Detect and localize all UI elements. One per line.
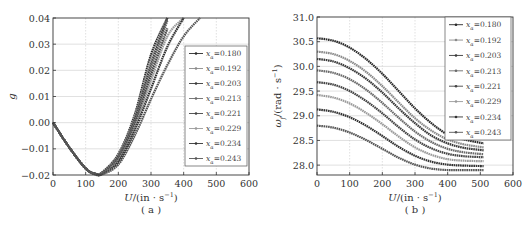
- y-tick-label: −0.01: [21, 143, 50, 154]
- legend-marker: [195, 97, 198, 100]
- y-tick-label: 29.0: [293, 110, 314, 121]
- figure: 0100200300400500600−0.02−0.010.000.010.0…: [0, 0, 530, 226]
- x-tick-label: 0: [314, 178, 320, 189]
- x-tick-label: 200: [373, 178, 391, 189]
- x-tick-label: 600: [504, 178, 522, 189]
- legend-marker: [195, 67, 198, 70]
- legend-marker: [195, 52, 198, 55]
- y-tick-label: 0.02: [29, 65, 50, 76]
- legend-marker: [455, 39, 458, 42]
- y-tick-label: 0.03: [29, 39, 50, 50]
- y-tick-label: 28.5: [293, 135, 314, 146]
- x-tick-label: 500: [471, 178, 489, 189]
- x-tick-label: 100: [341, 178, 359, 189]
- legend-marker: [195, 127, 198, 130]
- y-tick-label: −0.02: [21, 170, 50, 181]
- x-tick-label: 0: [50, 178, 56, 189]
- legend: xα=0.180xα=0.192xα=0.203xα=0.213xα=0.221…: [185, 46, 247, 166]
- legend-marker: [455, 131, 458, 134]
- x-tick-label: 600: [240, 178, 258, 189]
- y-axis-label: ωf/(rad · s−1): [271, 64, 287, 127]
- legend-marker: [195, 112, 198, 115]
- legend-marker: [455, 100, 458, 103]
- y-tick-label: 0.01: [29, 91, 50, 102]
- legend-marker: [195, 82, 198, 85]
- x-axis-label: U/(in · s−1): [388, 191, 442, 203]
- x-tick-label: 100: [77, 178, 95, 189]
- x-tick-label: 400: [175, 178, 193, 189]
- y-tick-label: 29.5: [293, 86, 314, 97]
- x-tick-label: 200: [109, 178, 127, 189]
- panel-label: ( b ): [405, 204, 426, 215]
- legend-marker: [455, 116, 458, 119]
- chart-panel-a: 0100200300400500600−0.02−0.010.000.010.0…: [6, 13, 258, 216]
- legend-marker: [455, 23, 458, 26]
- legend-marker: [195, 142, 198, 145]
- x-tick-label: 300: [406, 178, 424, 189]
- legend-marker: [455, 70, 458, 73]
- legend-marker: [195, 157, 198, 160]
- x-tick-label: 300: [142, 178, 160, 189]
- y-tick-label: 0.04: [29, 13, 50, 24]
- y-tick-label: 31.0: [293, 12, 314, 23]
- y-tick-label: 28.0: [293, 160, 314, 171]
- legend-marker: [455, 85, 458, 88]
- y-axis-label: g: [6, 93, 17, 99]
- series-line: [53, 28, 167, 174]
- panel-label: ( a ): [141, 204, 161, 215]
- y-tick-label: 0.00: [29, 117, 50, 128]
- series-line: [53, 21, 167, 175]
- chart-panel-b: 010020030040050060028.028.529.029.530.03…: [271, 12, 522, 216]
- y-tick-label: 30.5: [293, 36, 314, 47]
- legend: xα=0.180xα=0.192xα=0.203xα=0.213xα=0.221…: [445, 17, 511, 140]
- legend-marker: [455, 54, 458, 57]
- y-tick-label: 30.0: [293, 61, 314, 72]
- x-tick-label: 500: [207, 178, 225, 189]
- x-tick-label: 400: [439, 178, 457, 189]
- x-axis-label: U/(in · s−1): [124, 191, 178, 203]
